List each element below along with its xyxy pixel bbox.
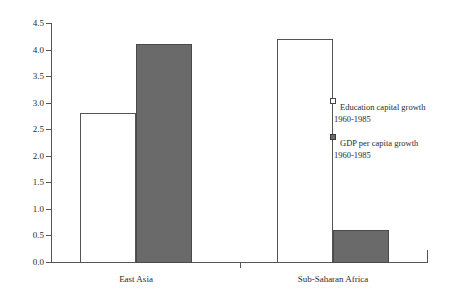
legend: Education capital growth 1960-1985 GDP p… bbox=[330, 96, 454, 168]
legend-label-line2: 1960-1985 bbox=[334, 114, 454, 124]
y-axis-tick bbox=[46, 156, 51, 157]
y-axis-tick bbox=[46, 50, 51, 51]
y-axis-tick-label: 1.5 bbox=[4, 178, 44, 187]
legend-item-label: GDP per capita growth 1960-1985 bbox=[330, 138, 454, 160]
x-axis-category-label: Sub-Saharan Africa bbox=[273, 274, 393, 284]
y-axis-tick-label: 3.5 bbox=[4, 72, 44, 81]
legend-label-line1: Education capital growth bbox=[340, 102, 425, 112]
y-axis-tick-label: 0.5 bbox=[4, 231, 44, 240]
y-axis-tick bbox=[46, 235, 51, 236]
y-axis-tick bbox=[46, 129, 51, 130]
legend-item-label: Education capital growth 1960-1985 bbox=[330, 102, 454, 124]
y-axis-tick bbox=[46, 182, 51, 183]
y-axis-tick-label: 2.0 bbox=[4, 152, 44, 161]
legend-item-gdp-per-capita-growth[interactable]: GDP per capita growth 1960-1985 bbox=[330, 132, 454, 160]
y-axis-tick bbox=[46, 103, 51, 104]
y-axis-tick bbox=[46, 209, 51, 210]
bar bbox=[277, 39, 333, 263]
bar-chart-figure: 0.00.51.01.52.02.53.03.54.04.5 East Asia… bbox=[0, 0, 454, 294]
frame-right-corner-tick bbox=[427, 250, 428, 263]
x-axis-tick bbox=[240, 263, 241, 268]
y-axis-tick-label: 4.5 bbox=[4, 19, 44, 28]
y-axis-tick-label: 1.0 bbox=[4, 205, 44, 214]
y-axis-tick-label: 3.0 bbox=[4, 99, 44, 108]
bar bbox=[136, 44, 192, 263]
legend-label-line1: GDP per capita growth bbox=[340, 138, 418, 148]
bar bbox=[333, 230, 389, 263]
open-square-icon bbox=[330, 98, 336, 104]
x-axis-category-label: East Asia bbox=[76, 274, 196, 284]
y-axis-tick bbox=[46, 23, 51, 24]
y-axis-tick bbox=[46, 262, 51, 263]
legend-label-line2: 1960-1985 bbox=[334, 150, 454, 160]
y-axis-tick bbox=[46, 76, 51, 77]
y-axis-tick-label: 4.0 bbox=[4, 46, 44, 55]
filled-square-icon bbox=[330, 134, 336, 140]
bar bbox=[80, 113, 136, 263]
y-axis-tick-label: 2.5 bbox=[4, 125, 44, 134]
y-axis-line bbox=[51, 23, 52, 263]
legend-item-education-capital-growth[interactable]: Education capital growth 1960-1985 bbox=[330, 96, 454, 124]
y-axis-tick-label: 0.0 bbox=[4, 258, 44, 267]
